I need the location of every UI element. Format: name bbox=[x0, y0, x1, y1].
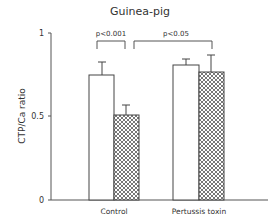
bar-pt-hatched bbox=[199, 72, 224, 200]
x-category-label: Pertussis toxin bbox=[172, 207, 227, 216]
sig-label: p<0.05 bbox=[163, 30, 189, 38]
y-tick-label: 1 bbox=[39, 29, 44, 38]
sig-bracket bbox=[97, 41, 125, 49]
bar-control-hatched bbox=[114, 115, 139, 200]
bar-control-open bbox=[89, 75, 114, 200]
y-axis-label: CTP/Ca ratio bbox=[17, 88, 27, 144]
chart-title: Guinea-pig bbox=[110, 5, 170, 18]
x-category-label: Control bbox=[100, 207, 127, 216]
y-tick-label: 0.5 bbox=[31, 112, 44, 121]
sig-bracket bbox=[134, 41, 212, 49]
y-tick-label: 0 bbox=[39, 196, 44, 205]
chart-svg: Guinea-pig 1 0.5 0 CTP/Ca ratio p<0.001 … bbox=[0, 0, 271, 223]
bar-pt-open bbox=[173, 65, 199, 200]
sig-label: p<0.001 bbox=[96, 30, 126, 38]
bar-chart: Guinea-pig 1 0.5 0 CTP/Ca ratio p<0.001 … bbox=[0, 0, 271, 223]
